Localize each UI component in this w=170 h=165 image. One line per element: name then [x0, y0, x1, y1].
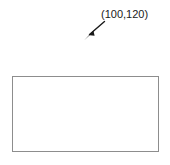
coordinate-annotation-label: (100,120) [101, 8, 148, 21]
diagram-canvas: (100,120) [0, 0, 170, 165]
rectangle-shape [12, 76, 159, 152]
